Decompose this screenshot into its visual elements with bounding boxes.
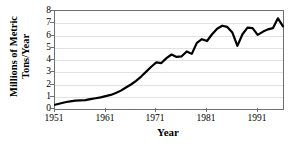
x-tick-label: 1951: [34, 113, 74, 123]
y-tick-mark: [50, 47, 54, 48]
x-tick-label: 1961: [85, 113, 125, 123]
y-tick-mark: [50, 84, 54, 85]
data-series-line: [55, 11, 283, 109]
x-axis-title: Year: [54, 126, 282, 138]
y-tick-mark: [50, 59, 54, 60]
x-tick-mark: [105, 108, 106, 112]
y-axis-title-line-2: Tons/Year: [20, 15, 32, 96]
x-tick-label: 1991: [237, 113, 277, 123]
y-tick-mark: [50, 10, 54, 11]
x-tick-label: 1981: [186, 113, 226, 123]
x-tick-mark: [257, 108, 258, 112]
y-tick-mark: [50, 71, 54, 72]
plot-area: [54, 10, 284, 110]
y-tick-mark: [50, 35, 54, 36]
x-tick-mark: [206, 108, 207, 112]
x-tick-label: 1971: [135, 113, 175, 123]
chart-figure: Millions of Metric Tons/Year 012345678 Y…: [0, 0, 304, 145]
y-tick-mark: [50, 22, 54, 23]
x-tick-mark: [155, 108, 156, 112]
y-tick-mark: [50, 96, 54, 97]
y-axis-title: Millions of Metric Tons/Year: [0, 0, 40, 112]
x-tick-mark: [54, 108, 55, 112]
y-axis-title-line-1: Millions of Metric: [9, 15, 21, 96]
